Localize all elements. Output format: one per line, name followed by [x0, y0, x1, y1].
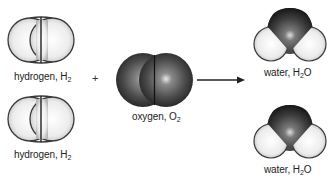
hydrogen-label-1: hydrogen, H2	[14, 71, 71, 82]
oxygen-label: oxygen, O2	[132, 111, 181, 122]
water-label-2: water, H2O	[264, 164, 311, 175]
hydrogen-molecule-2	[8, 96, 74, 142]
hydrogen-molecule-1	[8, 17, 74, 63]
water-molecule-2	[254, 105, 326, 158]
oxygen-molecule	[116, 53, 193, 107]
hydrogen-label-2: hydrogen, H2	[14, 149, 71, 160]
plus-sign: +	[92, 72, 98, 84]
reaction-arrow	[197, 77, 245, 84]
water-label-1: water, H2O	[264, 67, 311, 78]
water-molecule-1	[254, 8, 326, 61]
